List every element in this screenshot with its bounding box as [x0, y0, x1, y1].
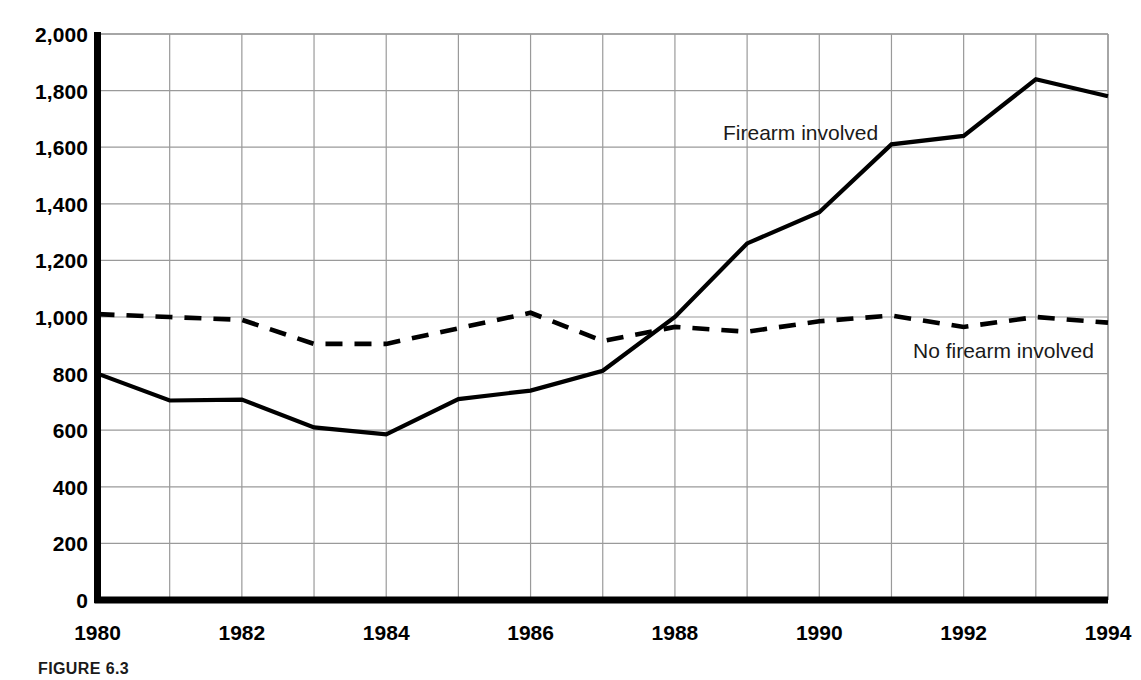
x-axis-tick-1988: 1988 — [652, 622, 699, 643]
series-label-no-firearm-involved: No firearm involved — [913, 340, 1094, 361]
x-axis-tick-1980: 1980 — [74, 622, 121, 643]
x-axis-tick-1990: 1990 — [796, 622, 843, 643]
x-axis-tick-1982: 1982 — [218, 622, 265, 643]
x-axis-tick-1994: 1994 — [1085, 622, 1132, 643]
series-label-firearm-involved: Firearm involved — [723, 122, 878, 143]
figure-caption: FIGURE 6.3 — [38, 660, 129, 680]
x-axis-tick-1984: 1984 — [363, 622, 410, 643]
figure-root: 02004006008001,0001,2001,4001,6001,8002,… — [0, 0, 1141, 680]
x-axis-tick-1992: 1992 — [940, 622, 987, 643]
x-axis-tick-1986: 1986 — [507, 622, 554, 643]
line-chart: 02004006008001,0001,2001,4001,6001,8002,… — [0, 0, 1141, 640]
x-axis-tick-labels: 19801982198419861988199019921994 — [0, 0, 1141, 640]
